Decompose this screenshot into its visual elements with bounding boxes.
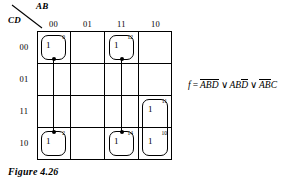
row-header-3: 10 (14, 138, 34, 148)
kmap-cell-10[interactable]: 1 10 (139, 127, 172, 159)
column-header-3: 10 (139, 19, 172, 29)
cell-value-11: 1 (148, 104, 153, 114)
kmap-cell-14[interactable]: 1 14 (105, 127, 138, 159)
formula-term-3: ABC (259, 80, 277, 90)
grid-hline-1 (37, 63, 172, 64)
formula-equals: = (191, 80, 200, 90)
literal-d-bar-2: D (241, 79, 248, 90)
group-connector-col-11 (121, 59, 123, 133)
formula-or-1: ∨ (219, 80, 230, 90)
figure-caption: Figure 4.26 (8, 166, 59, 177)
row-header-1: 01 (14, 74, 34, 84)
cell-index-10: 10 (162, 130, 168, 136)
cell-index-11: 11 (162, 98, 167, 104)
kmap-cell-12[interactable]: 1 12 (105, 31, 138, 63)
kmap-grid: 1 0 1 12 1 11 1 2 1 14 1 10 (37, 31, 172, 160)
kmap-cell-11[interactable]: 1 11 (139, 95, 172, 127)
cell-value-0: 1 (46, 40, 51, 50)
formula-or-2: ∨ (248, 80, 259, 90)
column-header-2: 11 (105, 19, 138, 29)
formula-term-2: ABD (230, 80, 249, 90)
literal-d-bar-1: D (212, 79, 219, 90)
boolean-formula: f=ABD∨ABD∨ABC (188, 79, 277, 92)
cell-index-0: 0 (62, 34, 65, 40)
cell-index-12: 12 (128, 34, 134, 40)
row-header-0: 00 (14, 42, 34, 52)
cell-index-14: 14 (128, 130, 134, 136)
literal-c-3: C (271, 80, 277, 90)
column-header-0: 00 (37, 19, 70, 29)
column-header-1: 01 (71, 19, 104, 29)
cell-value-14: 1 (114, 136, 119, 146)
row-header-2: 11 (14, 106, 34, 116)
cell-value-2: 1 (46, 136, 51, 146)
cell-index-2: 2 (62, 130, 65, 136)
group-connector-col-00 (53, 59, 55, 133)
kmap-cell-2[interactable]: 1 2 (37, 127, 70, 159)
row-variables-label: CD (8, 15, 21, 25)
cell-value-10: 1 (148, 136, 153, 146)
kmap-cell-0[interactable]: 1 0 (37, 31, 70, 63)
figure-container: AB CD 00 01 11 10 00 01 11 10 (0, 0, 289, 182)
formula-term-1: ABD (200, 80, 219, 90)
cell-value-12: 1 (114, 40, 119, 50)
column-variables-label: AB (36, 1, 48, 11)
